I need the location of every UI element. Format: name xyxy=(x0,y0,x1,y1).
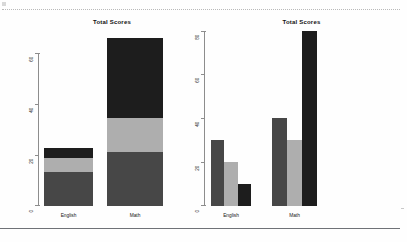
bar-english-series-1 xyxy=(44,172,93,206)
plot-area-left: 60 40 20 0 English Math xyxy=(8,12,198,228)
y-tick-label-20-left: 20 xyxy=(30,154,35,168)
top-divider xyxy=(2,9,400,10)
x-category-label-math-left: Math xyxy=(107,213,163,218)
y-tick-mark-20-left xyxy=(35,155,38,156)
y-tick-label-40-right: 40 xyxy=(196,117,201,131)
page-canvas: Total Scores 60 40 20 0 Englis xyxy=(0,0,407,242)
right-edge-marker xyxy=(401,208,404,209)
y-tick-mark-20-right xyxy=(201,162,204,163)
y-axis-cap-top-left xyxy=(38,53,40,54)
y-tick-mark-0-right xyxy=(201,205,204,206)
y-axis-cap-top-right xyxy=(204,31,206,32)
bar-english-series-3 xyxy=(44,148,93,158)
chart-right-grouped: Total Scores 80 60 40 20 0 xyxy=(196,12,401,228)
plot-area-right: 80 60 40 20 0 English Math xyxy=(196,12,401,228)
y-tick-label-80-right: 80 xyxy=(196,30,201,44)
bar-english-series-2 xyxy=(224,162,238,206)
bar-math-series-2 xyxy=(107,118,163,152)
bar-english-series-3 xyxy=(238,184,251,206)
y-tick-label-20-right: 20 xyxy=(196,161,201,175)
bar-math-series-1 xyxy=(272,118,287,206)
bar-math-series-1 xyxy=(107,152,163,206)
x-category-label-english-right: English xyxy=(211,213,251,218)
bar-math-series-3 xyxy=(107,38,163,118)
y-axis-cap-bottom-right xyxy=(204,205,206,206)
y-tick-mark-60-right xyxy=(201,74,204,75)
x-category-label-english-left: English xyxy=(44,213,93,218)
x-category-label-math-right: Math xyxy=(272,213,317,218)
y-tick-label-0-right: 0 xyxy=(196,204,201,218)
bar-english-series-2 xyxy=(44,158,93,172)
y-axis-cap-bottom-left xyxy=(38,205,40,206)
bottom-divider xyxy=(0,228,400,229)
bar-math-series-2 xyxy=(287,140,302,206)
bar-math-series-3 xyxy=(302,31,317,206)
y-tick-label-60-left: 60 xyxy=(30,52,35,66)
y-tick-mark-0-left xyxy=(35,205,38,206)
y-tick-mark-40-left xyxy=(35,104,38,105)
y-tick-label-60-right: 60 xyxy=(196,73,201,87)
y-axis-line-left xyxy=(38,53,39,206)
y-tick-mark-80-right xyxy=(201,31,204,32)
chart-left-stacked: Total Scores 60 40 20 0 Englis xyxy=(8,12,198,228)
y-tick-mark-40-right xyxy=(201,118,204,119)
bar-english-series-1 xyxy=(211,140,224,206)
y-tick-mark-60-left xyxy=(35,53,38,54)
top-left-corner-marker xyxy=(2,2,6,6)
y-tick-label-40-left: 40 xyxy=(30,103,35,117)
y-tick-label-0-left: 0 xyxy=(30,204,35,218)
y-axis-line-right xyxy=(204,31,205,206)
